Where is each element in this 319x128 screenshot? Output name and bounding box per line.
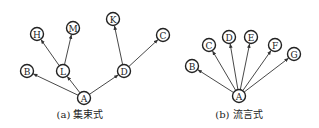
node-label: E — [248, 33, 255, 43]
node-g: G — [288, 48, 301, 61]
edge-a-to-d — [89, 75, 118, 94]
node-label: K — [110, 15, 117, 25]
node-b: B — [21, 65, 34, 78]
node-label: A — [80, 94, 88, 104]
node-c: C — [203, 39, 216, 52]
node-label: L — [60, 67, 66, 77]
cluster-chain-diagram: ABLDHMKC(a) 集束式 — [21, 13, 170, 121]
node-f: F — [269, 39, 282, 52]
edge-l-to-m — [64, 35, 71, 65]
diagram-caption: (b) 流言式 — [215, 108, 262, 120]
node-l: L — [57, 65, 70, 78]
communication-network-diagrams: ABLDHMKC(a) 集束式 ABCDEFG(b) 流言式 — [0, 0, 319, 128]
edge-a-to-b — [33, 74, 78, 95]
node-c: C — [157, 29, 170, 42]
node-h: H — [31, 28, 44, 41]
node-a: A — [78, 92, 91, 105]
node-label: G — [290, 50, 297, 60]
node-label: H — [33, 30, 41, 40]
node-label: D — [225, 33, 232, 43]
node-d: D — [223, 31, 236, 44]
node-d: D — [118, 65, 131, 78]
diagram-caption: (a) 集束式 — [57, 108, 104, 120]
edge-l-to-h — [41, 40, 59, 66]
node-label: F — [272, 41, 278, 51]
edge-a-to-l — [67, 77, 80, 93]
edge-a-to-g — [244, 58, 288, 92]
node-a: A — [233, 90, 246, 103]
node-e: E — [245, 31, 258, 44]
node-label: A — [235, 92, 243, 102]
node-label: B — [189, 62, 196, 72]
edge-d-to-k — [114, 26, 122, 65]
gossip-chain-diagram: ABCDEFG(b) 流言式 — [186, 31, 301, 121]
node-b: B — [186, 60, 199, 73]
node-label: M — [68, 24, 77, 34]
node-label: B — [24, 67, 31, 77]
node-label: C — [206, 41, 213, 51]
node-label: C — [160, 31, 167, 41]
node-label: D — [120, 67, 127, 77]
node-k: K — [107, 13, 120, 26]
edge-d-to-c — [129, 40, 158, 67]
edge-a-to-b — [198, 70, 234, 93]
node-m: M — [67, 22, 80, 35]
